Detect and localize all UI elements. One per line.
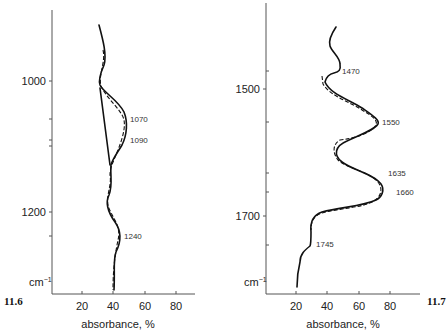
y-tick-label: 1500 (236, 83, 260, 95)
peak-label: 1550 (382, 118, 400, 127)
x-tick-label: 60 (353, 300, 365, 312)
figure-label: 11.6 (4, 295, 23, 307)
x-axis-label: absorbance, % (81, 318, 155, 330)
y-tick-label: 1000 (22, 75, 46, 87)
chart-11-6: 1000 1200 cm−1 20 40 60 80 absorbance, %… (4, 10, 195, 330)
solid-spectrum (297, 27, 383, 287)
y-tick-label: 1200 (22, 206, 46, 218)
peak-label: 1660 (396, 188, 414, 197)
peak-label: 1635 (388, 169, 406, 178)
x-tick-label: 20 (290, 300, 302, 312)
ir-spectra-figure: 1000 1200 cm−1 20 40 60 80 absorbance, %… (0, 0, 447, 331)
peak-label: 1470 (342, 67, 360, 76)
peak-label: 1745 (316, 240, 334, 249)
peak-label: 1070 (130, 115, 148, 124)
unit-label: cm−1 (244, 276, 267, 288)
peak-label: 1090 (130, 136, 148, 145)
x-tick-label: 60 (139, 300, 151, 312)
figure-label: 11.7 (427, 295, 446, 307)
dashed-spectrum (100, 50, 124, 290)
chart-11-7: 1500 1700 cm−1 20 40 60 80 absorbance, %… (236, 3, 447, 330)
peak-label: 1240 (124, 232, 142, 241)
y-tick-label: 1700 (236, 210, 260, 222)
x-tick-label: 40 (107, 300, 119, 312)
x-tick-label: 80 (170, 300, 182, 312)
x-tick-label: 20 (76, 300, 88, 312)
x-tick-label: 80 (384, 300, 396, 312)
x-tick-label: 40 (321, 300, 333, 312)
unit-label: cm−1 (29, 276, 52, 288)
x-axis-label: absorbance, % (306, 318, 380, 330)
solid-chord (100, 88, 110, 165)
